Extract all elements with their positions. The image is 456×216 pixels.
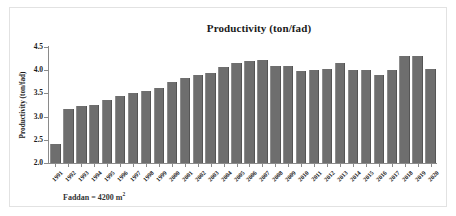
bar-1997 [128,93,138,163]
bar-2015 [361,70,371,163]
x-axis-tick-mark [392,164,393,167]
x-axis-tick-mark [120,164,121,167]
y-axis-tick-label: 3.5 [3,89,43,97]
bar-2008 [270,66,280,163]
bar-1996 [115,96,125,163]
bar-2007 [257,60,267,163]
page-title: Productivity (ton/fad) [0,22,456,34]
bar-2011 [309,70,319,163]
x-axis-tick-mark [107,164,108,167]
y-axis-tick-label: 2.5 [3,136,43,144]
x-axis-tick-mark [133,164,134,167]
bar-2000 [167,82,177,163]
y-axis-tick-mark [44,140,49,141]
bar-2002 [193,75,203,163]
plot-area [49,47,437,163]
bar-1991 [50,144,60,163]
y-axis-tick-label: 4.5 [3,43,43,51]
chart-figure: Productivity (ton/fad) Productivity (ton… [0,0,456,216]
x-axis-tick-mark [172,164,173,167]
bar-1995 [102,100,112,163]
y-axis-tick-mark [44,47,49,48]
y-axis-tick-mark [44,117,49,118]
x-axis-tick-mark [55,164,56,167]
bar-2005 [231,63,241,163]
x-axis-tick-mark [237,164,238,167]
bar-1993 [76,106,86,163]
x-axis-tick-mark [81,164,82,167]
x-axis-tick-mark [288,164,289,167]
bar-2020 [425,69,435,163]
x-axis-tick-mark [301,164,302,167]
x-axis-tick-mark [94,164,95,167]
x-axis-tick-mark [353,164,354,167]
y-axis-tick-labels: 2.02.53.03.54.04.5 [0,0,43,216]
x-axis-tick-mark [185,164,186,167]
x-axis-tick-mark [211,164,212,167]
bar-2010 [296,71,306,163]
bar-2012 [322,69,332,163]
y-axis-tick-mark [44,93,49,94]
y-axis-tick-label: 3.0 [3,113,43,121]
bar-2018 [399,56,409,163]
y-axis-tick-label: 4.0 [3,66,43,74]
bar-2017 [387,70,397,163]
x-axis-tick-mark [68,164,69,167]
x-axis-tick-mark [314,164,315,167]
y-axis-tick-label: 2.0 [3,159,43,167]
bar-2013 [335,63,345,163]
bar-2016 [374,75,384,163]
x-axis-tick-mark [146,164,147,167]
y-axis-tick-mark [44,163,49,164]
bar-2004 [218,67,228,164]
bar-2006 [244,61,254,163]
x-axis-tick-mark [159,164,160,167]
bar-2003 [205,73,215,163]
bar-1994 [89,105,99,163]
x-axis-tick-mark [340,164,341,167]
x-axis-tick-mark [405,164,406,167]
x-axis-tick-mark [249,164,250,167]
x-axis-tick-mark [275,164,276,167]
x-axis-tick-mark [327,164,328,167]
x-axis-tick-mark [379,164,380,167]
bar-2009 [283,66,293,163]
bar-2019 [412,56,422,163]
bar-2001 [180,78,190,163]
x-axis-tick-mark [262,164,263,167]
x-axis-tick-mark [224,164,225,167]
x-axis-tick-mark [366,164,367,167]
bar-1992 [63,109,73,163]
x-axis-tick-mark [198,164,199,167]
y-axis-tick-mark [44,70,49,71]
bar-1999 [154,88,164,163]
bar-2014 [348,70,358,163]
x-axis-tick-mark [431,164,432,167]
x-axis-tick-mark [418,164,419,167]
bar-1998 [141,91,151,163]
